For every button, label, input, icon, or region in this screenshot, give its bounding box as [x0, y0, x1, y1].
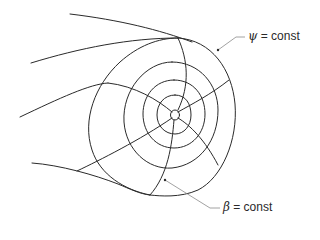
- beta-text: = const: [230, 200, 272, 214]
- psi-leader-dot: [217, 49, 219, 51]
- beta-leader: [165, 180, 220, 208]
- beta-line-2: [108, 83, 172, 112]
- psi-surface-3: [143, 80, 205, 148]
- psi-surface-2: [157, 95, 191, 134]
- tail-line-upper: [31, 38, 178, 63]
- psi-text: = const: [257, 29, 299, 43]
- beta-label: β = const: [223, 201, 272, 213]
- beta-lines: [77, 38, 229, 195]
- tail-line-middle: [20, 83, 108, 117]
- beta-leader-dot: [164, 179, 166, 181]
- psi-surface-outer: [89, 38, 236, 196]
- beta-symbol: β: [223, 200, 230, 214]
- psi-label: ψ = const: [248, 30, 300, 42]
- beta-line-5: [178, 118, 218, 165]
- psi-surfaces: [89, 38, 236, 196]
- psi-symbol: ψ: [248, 29, 257, 43]
- psi-leader: [218, 37, 245, 50]
